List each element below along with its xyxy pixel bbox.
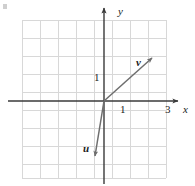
grid-lines	[22, 20, 166, 178]
x-axis-label: x	[183, 104, 188, 115]
vector-u-label: u	[83, 143, 89, 154]
vector-v-label: v	[136, 57, 141, 68]
x-tick-label-3: 3	[165, 104, 171, 115]
vector-diagram-figure: y x 1 1 3 v u	[0, 0, 195, 186]
y-tick-label-1: 1	[94, 72, 100, 83]
vector-v-arrow	[104, 58, 152, 101]
axes	[8, 8, 178, 184]
x-tick-label-1: 1	[120, 104, 126, 115]
coordinate-plane-svg	[0, 0, 195, 186]
y-axis-label: y	[118, 6, 123, 17]
